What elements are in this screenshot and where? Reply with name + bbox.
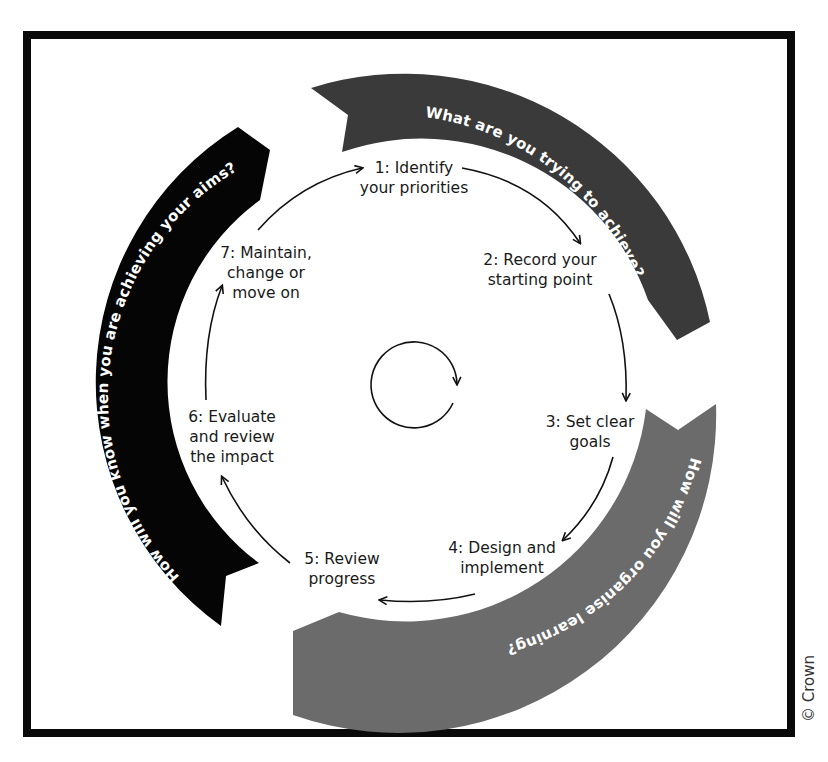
svg-text:move on: move on — [232, 284, 300, 302]
svg-text:6: Evaluate: 6: Evaluate — [188, 408, 276, 426]
svg-text:4: Design and: 4: Design and — [448, 539, 556, 557]
svg-text:2: Record your: 2: Record your — [483, 251, 597, 269]
step-5: 5: Review progress — [304, 550, 380, 588]
step-3: 3: Set clear goals — [546, 413, 635, 451]
step-4: 4: Design and implement — [448, 539, 556, 577]
svg-text:3: Set clear: 3: Set clear — [546, 413, 635, 431]
svg-text:1: Identify: 1: Identify — [375, 159, 454, 177]
step-6: 6: Evaluate and review the impact — [188, 408, 276, 466]
svg-text:progress: progress — [309, 570, 376, 588]
learning-cycle-diagram: What are you trying to achieve? How will… — [0, 0, 828, 762]
svg-text:5: Review: 5: Review — [304, 550, 380, 568]
svg-text:change or: change or — [227, 264, 305, 282]
arrow-6-to-7 — [206, 286, 222, 400]
svg-text:implement: implement — [460, 559, 544, 577]
svg-text:the impact: the impact — [190, 448, 274, 466]
arrow-7-to-1 — [258, 168, 362, 230]
step-2: 2: Record your starting point — [483, 251, 597, 289]
arrow-2-to-3 — [609, 294, 626, 400]
svg-text:goals: goals — [569, 433, 610, 451]
clockwise-cycle-icon — [371, 342, 457, 428]
step-7: 7: Maintain, change or move on — [220, 244, 312, 302]
svg-text:starting point: starting point — [488, 271, 593, 289]
band-top — [311, 74, 710, 340]
copyright-notice: © Crown — [800, 655, 818, 722]
cycle-arrows — [206, 168, 627, 602]
svg-text:and review: and review — [189, 428, 275, 446]
svg-text:your priorities: your priorities — [360, 179, 468, 197]
step-1: 1: Identify your priorities — [360, 159, 468, 197]
svg-text:7: Maintain,: 7: Maintain, — [220, 244, 312, 262]
arrow-4-to-5 — [380, 594, 475, 602]
